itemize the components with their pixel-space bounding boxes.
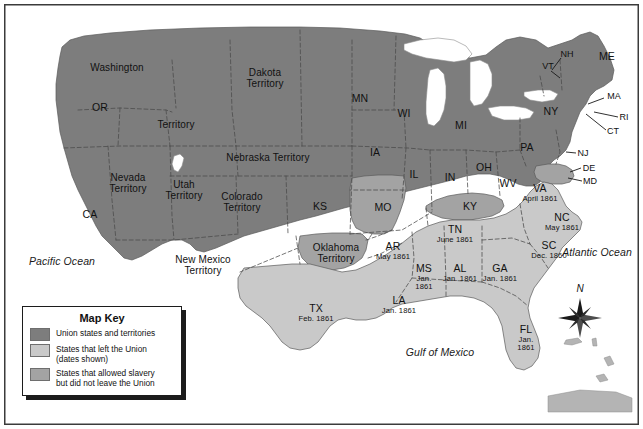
- kentucky-label: KY: [463, 201, 477, 213]
- place-name: NC: [554, 211, 569, 223]
- tennessee-label: TNJune 1861: [437, 224, 473, 244]
- nebraska-territory-label: Nebraska Territory: [226, 152, 309, 163]
- georgia-label: GAJan. 1861: [483, 263, 517, 283]
- place-name: MA: [607, 91, 621, 101]
- connecticut-label: CT: [607, 126, 619, 136]
- place-name: Colorado Territory: [221, 191, 262, 213]
- place-name: AL: [453, 262, 466, 274]
- washington-territory-label: Washington: [90, 62, 143, 73]
- wisconsin-label: WI: [397, 108, 410, 120]
- maine-label: ME: [599, 51, 615, 63]
- rhode-island-label: RI: [619, 112, 628, 122]
- place-name: AR: [386, 240, 401, 252]
- oregon-label: OR: [92, 102, 108, 114]
- place-name: GA: [492, 262, 507, 274]
- secession-date: Jan. 1861: [517, 335, 534, 352]
- pacific-ocean-label: Pacific Ocean: [29, 256, 95, 268]
- new-jersey-label: NJ: [577, 148, 588, 158]
- oklahoma-territory-label: Oklahoma Territory: [313, 242, 359, 264]
- place-name: VA: [533, 182, 546, 194]
- place-name: Nevada Territory: [109, 172, 146, 194]
- washington-territory-label2: Territory: [157, 119, 194, 130]
- minnesota-label: MN: [352, 93, 369, 105]
- place-name: Territory: [157, 119, 194, 130]
- place-name: MO: [374, 201, 391, 213]
- legend-rows: Union states and territoriesStates that …: [23, 328, 181, 388]
- map-key-legend: Map Key Union states and territoriesStat…: [22, 306, 182, 396]
- dakota-territory-label: Dakota Territory: [246, 67, 283, 89]
- kansas-label: KS: [313, 201, 327, 213]
- delaware-label: DE: [583, 163, 596, 173]
- place-name: MN: [352, 92, 369, 104]
- place-name: NJ: [577, 148, 588, 158]
- place-name: VT: [542, 61, 554, 71]
- place-name: PA: [520, 141, 533, 153]
- place-name: Dakota Territory: [246, 67, 283, 89]
- west-virginia-label: WV: [499, 178, 516, 190]
- maryland-label: MD: [583, 176, 597, 186]
- place-name: NH: [560, 49, 573, 59]
- place-name: New Mexico Territory: [175, 254, 230, 276]
- secession-date: Jan. 1861: [483, 275, 517, 284]
- california-label: CA: [83, 209, 98, 221]
- secession-date: Jan. 1861: [443, 275, 477, 284]
- missouri-label: MO: [374, 202, 391, 214]
- place-name: FL: [520, 323, 532, 335]
- legend-item-slave-in-union: States that allowed slavery but did not …: [30, 368, 181, 389]
- legend-label: States that allowed slavery but did not …: [56, 368, 155, 389]
- new-hampshire-label: NH: [560, 49, 573, 59]
- place-name: Utah Territory: [165, 179, 202, 201]
- colorado-territory-label: Colorado Territory: [221, 191, 262, 213]
- compass-rose: N: [554, 283, 606, 345]
- mississippi-label: MSJan. 1861: [415, 263, 432, 292]
- place-name: Oklahoma Territory: [313, 242, 359, 264]
- secession-date: May 1861: [545, 224, 579, 233]
- civil-war-secession-map: WashingtonTerritoryORNevada TerritoryCAU…: [0, 0, 643, 429]
- ohio-label: OH: [476, 162, 492, 174]
- place-name: WV: [499, 177, 516, 189]
- utah-territory-label: Utah Territory: [165, 179, 202, 201]
- legend-label: Union states and territories: [56, 328, 155, 338]
- place-name: NY: [544, 105, 559, 117]
- vermont-label: VT: [542, 61, 554, 71]
- secession-date: May 1861: [376, 253, 410, 262]
- place-name: Nebraska Territory: [226, 152, 309, 163]
- legend-swatch-seceded: [30, 344, 50, 357]
- michigan-label: MI: [455, 120, 467, 132]
- legend-swatch-union: [30, 328, 50, 341]
- arkansas-label: ARMay 1861: [376, 241, 410, 261]
- new-mexico-territory-label: New Mexico Territory: [175, 254, 230, 276]
- secession-date: April 1861: [522, 195, 557, 204]
- place-name: OR: [92, 101, 108, 113]
- secession-date: Feb. 1861: [298, 315, 333, 324]
- virginia-label: VAApril 1861: [522, 183, 557, 203]
- place-name: RI: [619, 112, 628, 122]
- massachusetts-label: MA: [607, 91, 621, 101]
- place-name: IN: [445, 171, 456, 183]
- secession-date: June 1861: [437, 236, 473, 245]
- place-name: LA: [392, 294, 405, 306]
- place-name: KY: [463, 200, 477, 212]
- place-name: KS: [313, 200, 327, 212]
- new-york-label: NY: [544, 106, 559, 118]
- iowa-label: IA: [370, 147, 380, 159]
- louisiana-label: LAJan. 1861: [382, 295, 416, 315]
- legend-title: Map Key: [23, 312, 181, 324]
- north-carolina-label: NCMay 1861: [545, 212, 579, 232]
- place-name: ME: [599, 50, 615, 62]
- legend-swatch-slave-in-union: [30, 368, 50, 381]
- compass-north-label: N: [576, 283, 583, 294]
- illinois-label: IL: [410, 169, 419, 181]
- alabama-label: ALJan. 1861: [443, 263, 477, 283]
- place-name: IA: [370, 146, 380, 158]
- place-name: MS: [416, 262, 432, 274]
- place-name: Washington: [90, 62, 143, 73]
- nevada-territory-label: Nevada Territory: [109, 172, 146, 194]
- place-name: WI: [397, 107, 410, 119]
- place-name: CT: [607, 126, 619, 136]
- place-name: DE: [583, 163, 596, 173]
- place-name: CA: [83, 208, 98, 220]
- secession-date: Jan. 1861: [415, 274, 432, 291]
- place-name: TN: [448, 223, 462, 235]
- florida-label: FLJan. 1861: [517, 324, 534, 353]
